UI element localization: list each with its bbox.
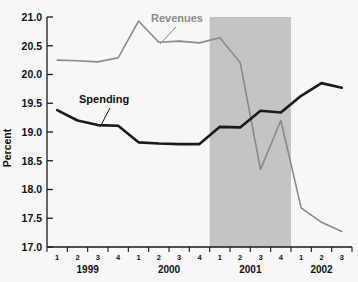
recession-band <box>210 17 291 247</box>
x-quarter-label: 1 <box>55 253 59 262</box>
recession-shading <box>210 17 291 247</box>
y-tick-label: 17.0 <box>22 241 43 253</box>
x-quarter-label: 1 <box>299 253 303 262</box>
line-chart: 21.020.520.019.519.018.518.017.517.0 123… <box>0 0 358 282</box>
y-axis-title: Percent <box>1 128 13 167</box>
x-quarter-label: 2 <box>75 253 79 262</box>
chart-container: 21.020.520.019.519.018.518.017.517.0 123… <box>0 0 358 282</box>
y-tick-label: 18.0 <box>22 183 43 195</box>
y-tick-label: 18.5 <box>22 155 43 167</box>
revenues-label: Revenues <box>151 12 203 24</box>
x-year-label: 1999 <box>77 264 100 275</box>
x-quarter-label: 3 <box>96 253 100 262</box>
y-tick-label: 20.5 <box>22 40 43 52</box>
y-tick-label: 19.0 <box>22 126 43 138</box>
x-quarter-label: 2 <box>319 253 323 262</box>
x-quarter-label: 3 <box>177 253 181 262</box>
y-tick-label: 17.5 <box>22 212 43 224</box>
x-year-label: 2001 <box>239 264 262 275</box>
x-quarter-label: 2 <box>238 253 242 262</box>
x-quarter-label: 1 <box>136 253 140 262</box>
x-year-label: 2002 <box>310 264 333 275</box>
y-tick-label: 20.0 <box>22 68 43 80</box>
chart-background <box>0 0 358 282</box>
spending-label: Spending <box>79 93 129 105</box>
y-tick-label: 21.0 <box>22 11 43 23</box>
x-quarter-label: 2 <box>157 253 161 262</box>
x-quarter-label: 3 <box>340 253 344 262</box>
x-quarter-label: 1 <box>218 253 222 262</box>
x-year-label: 2000 <box>158 264 181 275</box>
x-quarter-label: 3 <box>258 253 262 262</box>
y-tick-label: 19.5 <box>22 97 43 109</box>
